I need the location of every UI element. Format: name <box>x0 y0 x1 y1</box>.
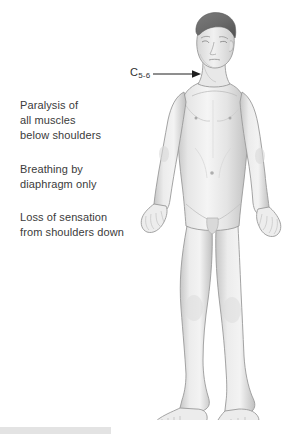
annotation-breathing: Breathing by diaphragm only <box>20 162 97 192</box>
figure-group <box>141 13 281 420</box>
nipple-right <box>229 117 232 120</box>
elbow-shadow-right <box>255 148 265 164</box>
navel <box>210 171 214 175</box>
human-body-figure <box>140 8 285 420</box>
illustration-canvas: Paralysis of all muscles below shoulders… <box>0 0 285 440</box>
human-body-svg <box>140 8 285 420</box>
vertebra-level-prefix: C <box>130 66 138 78</box>
foot-left <box>156 408 207 420</box>
elbow-shadow-left <box>159 146 169 162</box>
knee-shadow-right <box>223 297 241 323</box>
annotation-paralysis: Paralysis of all muscles below shoulders <box>20 98 101 143</box>
annotation-sensation: Loss of sensation from shoulders down <box>20 210 124 240</box>
hand-left <box>141 204 167 233</box>
watermark-strip <box>0 427 111 434</box>
nipple-left <box>195 117 198 120</box>
knee-shadow-left <box>185 295 203 321</box>
